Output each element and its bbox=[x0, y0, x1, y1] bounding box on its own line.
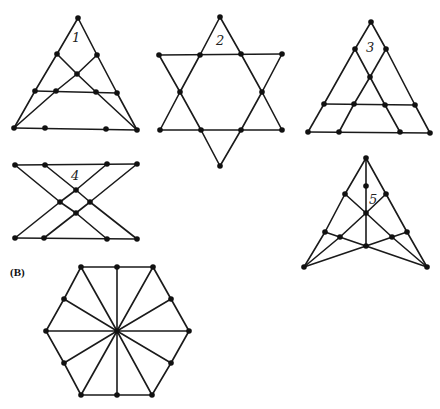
graph-node bbox=[73, 210, 79, 216]
graph-node bbox=[78, 264, 84, 270]
graph-edge bbox=[96, 92, 137, 130]
graph-edge bbox=[14, 91, 35, 128]
figure-1: 1 bbox=[11, 15, 140, 133]
graph-edge bbox=[241, 54, 262, 92]
graph-edge bbox=[15, 165, 60, 202]
graph-edge bbox=[171, 299, 189, 331]
graph-edge bbox=[159, 54, 282, 55]
graph-edge bbox=[171, 331, 189, 363]
figure-number-label: 3 bbox=[366, 40, 374, 55]
graph-edge bbox=[90, 202, 137, 239]
graph-node bbox=[363, 243, 369, 249]
graph-edge bbox=[308, 104, 324, 132]
graph-edge bbox=[304, 237, 340, 267]
figure-number-label: 5 bbox=[369, 192, 377, 207]
graph-edge bbox=[324, 104, 415, 105]
figure-2: 2 bbox=[156, 14, 285, 169]
graph-edge bbox=[76, 164, 107, 190]
graph-edge bbox=[90, 164, 137, 202]
graph-node bbox=[32, 88, 38, 94]
graph-edge bbox=[14, 91, 56, 128]
graph-edge bbox=[159, 55, 180, 92]
graph-node bbox=[114, 264, 120, 270]
graph-edge bbox=[339, 104, 354, 132]
graph-node bbox=[73, 187, 79, 193]
graph-node bbox=[12, 235, 18, 241]
graph-edge bbox=[117, 93, 137, 130]
graph-edge bbox=[77, 74, 96, 92]
graph-edge bbox=[340, 213, 366, 237]
graph-node bbox=[259, 89, 265, 95]
graph-node bbox=[337, 234, 343, 240]
graph-node bbox=[134, 236, 140, 242]
graph-figures-canvas: 12345 (B) bbox=[0, 0, 440, 409]
graph-edge bbox=[81, 331, 117, 395]
graph-node bbox=[149, 392, 155, 398]
graph-node bbox=[12, 162, 18, 168]
graph-edge bbox=[57, 54, 77, 74]
graph-node bbox=[383, 191, 389, 197]
graph-node bbox=[134, 161, 140, 167]
graph-edge bbox=[366, 158, 386, 194]
graph-edge bbox=[60, 202, 76, 213]
graph-edge bbox=[44, 213, 76, 238]
graph-edge bbox=[78, 18, 97, 55]
graph-edge bbox=[220, 130, 241, 166]
graph-node bbox=[412, 102, 418, 108]
graph-edge bbox=[392, 237, 427, 267]
graph-node bbox=[363, 210, 369, 216]
graph-node bbox=[41, 235, 47, 241]
graph-edge bbox=[325, 194, 345, 232]
graph-node bbox=[11, 125, 17, 131]
graph-node bbox=[168, 296, 174, 302]
graph-node bbox=[279, 127, 285, 133]
graph-node bbox=[305, 129, 311, 135]
graph-edge bbox=[15, 164, 137, 165]
graph-node bbox=[168, 360, 174, 366]
graph-node bbox=[352, 46, 358, 52]
graph-node bbox=[363, 183, 369, 189]
graph-node bbox=[150, 264, 156, 270]
graph-node bbox=[383, 46, 389, 52]
graph-node bbox=[301, 264, 307, 270]
graph-edge bbox=[64, 267, 81, 299]
graph-node bbox=[61, 296, 67, 302]
graph-node bbox=[114, 328, 120, 334]
graph-node bbox=[177, 89, 183, 95]
graph-node bbox=[57, 199, 63, 205]
graph-edge bbox=[262, 92, 282, 130]
graph-edge bbox=[35, 54, 57, 91]
graph-edge bbox=[262, 54, 282, 92]
graph-edge bbox=[46, 299, 64, 331]
graph-edge bbox=[15, 238, 137, 239]
graph-edge bbox=[308, 132, 430, 133]
graph-node bbox=[368, 19, 374, 25]
graph-node bbox=[114, 392, 120, 398]
graph-edge bbox=[81, 267, 117, 331]
graph-node bbox=[87, 199, 93, 205]
graph-node bbox=[186, 328, 192, 334]
graph-edge bbox=[35, 91, 117, 93]
graph-edge bbox=[386, 49, 415, 105]
graph-edge bbox=[370, 77, 385, 105]
graph-node bbox=[336, 129, 342, 135]
graph-node bbox=[427, 130, 433, 136]
graph-edge bbox=[153, 267, 171, 299]
graph-node bbox=[351, 101, 357, 107]
graph-node bbox=[54, 51, 60, 57]
figure-B bbox=[43, 264, 192, 398]
graph-node bbox=[134, 127, 140, 133]
graph-node bbox=[389, 234, 395, 240]
graph-edge bbox=[77, 55, 97, 74]
graph-edge bbox=[64, 331, 117, 363]
figure-3: 3 bbox=[305, 19, 433, 136]
graph-node bbox=[75, 15, 81, 21]
figure-number-label: 1 bbox=[72, 30, 80, 45]
graph-edge bbox=[14, 128, 137, 130]
graph-node bbox=[424, 264, 430, 270]
panel-label: (B) bbox=[10, 266, 25, 279]
graph-edge bbox=[345, 158, 366, 194]
graph-node bbox=[43, 328, 49, 334]
graph-node bbox=[93, 89, 99, 95]
graph-edge bbox=[415, 105, 430, 133]
